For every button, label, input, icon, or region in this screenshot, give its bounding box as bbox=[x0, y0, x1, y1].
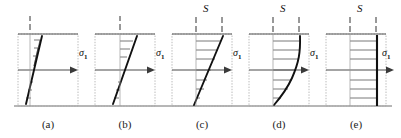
panel-c-s-label: S bbox=[203, 2, 209, 14]
panel-c-sigma-arrowhead bbox=[224, 67, 232, 74]
panel-a-sigma-subscript: 1 bbox=[84, 53, 88, 61]
panel-b bbox=[95, 16, 155, 106]
panel-e-caption: (e) bbox=[336, 118, 376, 130]
panel-e-s-label: S bbox=[357, 2, 363, 14]
panel-b-sigma-arrowhead bbox=[147, 67, 155, 74]
panel-d-caption: (d) bbox=[259, 118, 299, 130]
panel-a-caption: (a) bbox=[28, 118, 68, 130]
panel-a bbox=[18, 16, 78, 106]
panel-e-sigma-subscript: 1 bbox=[387, 53, 391, 61]
panel-d-sigma-label: σ1 bbox=[310, 47, 318, 61]
panel-d bbox=[249, 17, 309, 106]
panel-b-sigma-subscript: 1 bbox=[161, 53, 165, 61]
panel-e-sigma-label: σ1 bbox=[382, 47, 390, 61]
panel-d-sigma-arrowhead bbox=[301, 67, 309, 74]
panel-a-sigma-label: σ1 bbox=[79, 47, 87, 61]
panel-c-caption: (c) bbox=[182, 118, 222, 130]
panel-e bbox=[326, 17, 394, 106]
strain-profile-figure: S S S σ1 σ1 σ1 σ1 σ1 (a) (b) (c) (d) (e) bbox=[0, 0, 401, 138]
panel-b-sigma-label: σ1 bbox=[156, 47, 164, 61]
panel-c-sigma-label: σ1 bbox=[233, 47, 241, 61]
panel-a-sigma-arrowhead bbox=[70, 67, 78, 74]
panel-e-sigma-arrowhead bbox=[386, 67, 394, 74]
panel-d-s-label: S bbox=[280, 2, 286, 14]
panel-c-sigma-subscript: 1 bbox=[238, 53, 242, 61]
panel-c bbox=[172, 17, 232, 106]
panel-d-sigma-subscript: 1 bbox=[315, 53, 319, 61]
panel-b-caption: (b) bbox=[105, 118, 145, 130]
